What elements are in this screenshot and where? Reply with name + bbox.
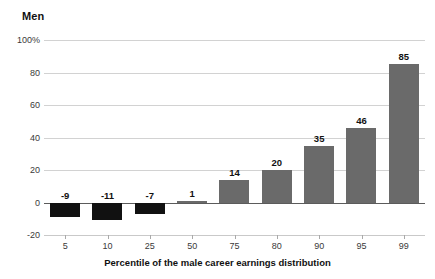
- x-tick-label: 99: [399, 241, 409, 251]
- x-tick-mark: [150, 235, 151, 239]
- bar-value-label: 1: [190, 188, 195, 199]
- x-tick-mark: [404, 235, 405, 239]
- bar-group: 1: [171, 40, 213, 235]
- x-tick-mark: [108, 235, 109, 239]
- y-tick-label: 80: [0, 68, 40, 78]
- bar-group: -9: [44, 40, 86, 235]
- bar[interactable]: [219, 180, 249, 203]
- bar-value-label: 20: [272, 157, 283, 168]
- bar-chart: Men 100%806040200-20 -95-1110-7251501475…: [0, 0, 435, 279]
- x-axis-title: Percentile of the male career earnings d…: [0, 257, 435, 268]
- x-tick-mark: [277, 235, 278, 239]
- x-tick-label: 50: [187, 241, 197, 251]
- bar-value-label: -9: [61, 190, 69, 201]
- x-tick-label: 10: [102, 241, 112, 251]
- x-tick-label: 95: [356, 241, 366, 251]
- bar[interactable]: [389, 64, 419, 202]
- x-tick-mark: [192, 235, 193, 239]
- y-tick-label: -20: [0, 230, 40, 240]
- bar-group: -11: [86, 40, 128, 235]
- x-tick-mark: [235, 235, 236, 239]
- x-tick-label: 90: [314, 241, 324, 251]
- y-axis: 100%806040200-20: [0, 40, 40, 235]
- bar-value-label: 46: [356, 115, 367, 126]
- bar[interactable]: [92, 203, 122, 221]
- bar-value-label: 85: [399, 51, 410, 62]
- y-tick-label: 40: [0, 133, 40, 143]
- bar-group: 14: [213, 40, 255, 235]
- bar[interactable]: [262, 170, 292, 203]
- bar-value-label: -11: [101, 190, 114, 201]
- x-tick-label: 5: [63, 241, 68, 251]
- bar-value-label: 14: [229, 167, 240, 178]
- y-tick-label: 20: [0, 165, 40, 175]
- bar-value-label: 35: [314, 133, 325, 144]
- y-tick-label: 60: [0, 100, 40, 110]
- bar-value-label: -7: [146, 190, 154, 201]
- x-tick-label: 80: [272, 241, 282, 251]
- bar[interactable]: [135, 203, 165, 214]
- y-tick-label: 100%: [0, 35, 40, 45]
- bar[interactable]: [304, 146, 334, 203]
- x-tick-label: 25: [145, 241, 155, 251]
- x-tick-mark: [319, 235, 320, 239]
- chart-title: Men: [22, 10, 44, 22]
- y-tick-label: 0: [0, 198, 40, 208]
- bar-group: -7: [129, 40, 171, 235]
- bar-group: 20: [256, 40, 298, 235]
- x-tick-mark: [362, 235, 363, 239]
- bar[interactable]: [50, 203, 80, 218]
- plot-area: -95-1110-72515014752080359046958599: [44, 40, 425, 235]
- bar[interactable]: [177, 201, 207, 203]
- bar-group: 35: [298, 40, 340, 235]
- bar-group: 85: [383, 40, 425, 235]
- bar[interactable]: [346, 128, 376, 203]
- bar-group: 46: [340, 40, 382, 235]
- x-tick-mark: [65, 235, 66, 239]
- x-tick-label: 75: [229, 241, 239, 251]
